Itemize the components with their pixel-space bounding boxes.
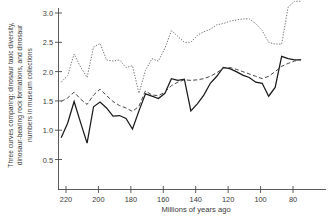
data-series-group — [61, 1, 301, 143]
x-tick-label: 120 — [222, 195, 234, 204]
x-tick-label: 100 — [254, 195, 266, 204]
y-tick-label: 1.5 — [28, 96, 53, 105]
x-tick-label: 220 — [60, 195, 72, 204]
chart-figure: Three curves comparing: dinosaur taxic d… — [0, 0, 333, 222]
y-tick-label: 3.0 — [28, 9, 53, 18]
x-tick-label: 140 — [190, 195, 202, 204]
y-tick-label: 1.0 — [28, 126, 53, 135]
plot-area — [0, 0, 333, 222]
series-line-1 — [61, 56, 301, 143]
y-tick-label: 2.5 — [28, 38, 53, 47]
x-tick-label: 180 — [125, 195, 137, 204]
x-tick-label: 160 — [157, 195, 169, 204]
y-tick-label: 2.0 — [28, 67, 53, 76]
x-tick-label: 200 — [92, 195, 104, 204]
y-tick-label: 0.5 — [28, 155, 53, 164]
x-axis-label: Millions of years ago — [161, 205, 230, 214]
axis-lines — [59, 8, 327, 190]
x-tick-label: 80 — [289, 195, 297, 204]
